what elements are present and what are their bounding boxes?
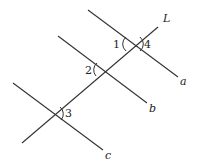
parallel-line-c: [13, 83, 103, 150]
label-L: L: [162, 12, 170, 25]
label-angle-4: 4: [144, 38, 151, 51]
label-angle-3: 3: [65, 107, 72, 120]
label-b: b: [149, 102, 156, 115]
label-c: c: [105, 149, 111, 162]
label-a: a: [180, 75, 187, 88]
parallel-line-b: [58, 36, 147, 103]
angle-1-arc: [123, 37, 126, 51]
label-angle-1: 1: [113, 38, 120, 51]
transversal-line-L: [22, 27, 158, 143]
label-angle-2: 2: [85, 64, 92, 77]
parallel-lines-diagram: L a b c 1 4 2 3: [0, 0, 199, 166]
